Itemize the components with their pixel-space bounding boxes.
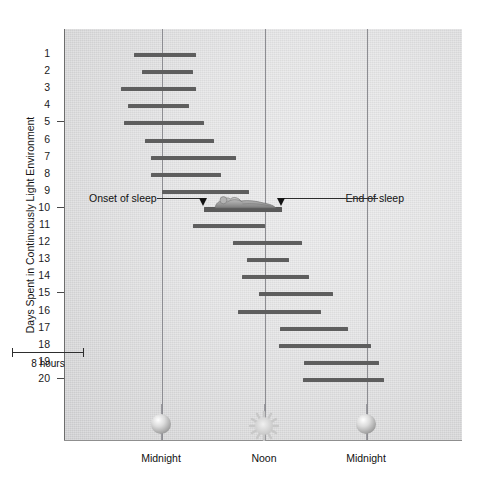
sleep-bar-day-18 [279,344,371,348]
scale-bar-cap-left [12,348,13,357]
scale-bar-label: 8 hours [12,358,84,369]
y-tick-mark-20 [57,378,64,379]
sleep-bar-day-12 [233,241,302,245]
onset-of-sleep-arrow-icon [199,198,207,206]
sleep-bar-day-11 [193,224,265,228]
y-tick-label-15: 15 [38,287,50,298]
plot-area [64,29,462,440]
x-tick-label-midnight-2: Midnight [346,452,386,464]
sleep-bar-day-17 [280,327,348,331]
y-tick-label-1: 1 [44,48,50,59]
sleep-bar-day-19 [304,361,379,365]
end-of-sleep-arrow-icon [277,198,285,206]
sleep-bar-day-1 [134,53,196,57]
y-tick-mark-15 [57,292,64,293]
sleep-bar-day-2 [142,70,192,74]
sleep-bar-day-8 [151,173,221,177]
y-axis: Days Spent in Continuously Light Environ… [0,29,64,440]
y-tick-label-12: 12 [38,236,50,247]
sleep-bar-day-7 [151,156,236,160]
scale-bar-cap-right [83,348,84,357]
scale-bar: 8 hours [12,348,84,374]
y-tick-label-8: 8 [44,168,50,179]
sleep-bar-day-10 [204,207,282,212]
sleep-bar-day-5 [124,121,203,125]
y-tick-label-3: 3 [44,82,50,93]
sleep-bar-day-15 [259,292,333,296]
x-tick-label-noon-1: Noon [251,452,276,464]
sleep-bar-day-16 [238,310,321,314]
sleep-bar-day-14 [242,275,309,279]
y-tick-label-10: 10 [38,202,50,213]
end-of-sleep-leader-line [281,198,378,199]
y-tick-label-2: 2 [44,65,50,76]
sleeping-person-icon [209,193,279,209]
y-tick-label-13: 13 [38,253,50,264]
sleep-phase-chart: Days Spent in Continuously Light Environ… [0,0,484,491]
sleep-bar-day-4 [128,104,190,108]
y-tick-label-20: 20 [38,373,50,384]
onset-of-sleep-label: Onset of sleep [89,192,157,204]
sleep-bar-day-20 [303,378,384,382]
sleep-bar-day-13 [247,258,290,262]
y-tick-label-11: 11 [39,219,50,230]
y-tick-label-17: 17 [38,322,50,333]
scale-bar-rule [12,352,84,353]
y-tick-label-7: 7 [44,151,50,162]
y-tick-label-14: 14 [38,270,50,281]
moon-icon [353,411,379,441]
moon-icon [148,411,174,441]
y-tick-label-16: 16 [38,305,50,316]
x-tick-label-midnight-0: Midnight [141,452,181,464]
y-tick-mark-5 [57,121,64,122]
gridline-noon [265,29,266,440]
y-tick-label-4: 4 [44,99,50,110]
sun-icon [249,411,279,445]
sleep-bar-day-6 [145,139,214,143]
y-tick-label-5: 5 [44,116,50,127]
y-tick-label-6: 6 [44,134,50,145]
onset-of-sleep-leader-line [157,198,203,199]
y-tick-mark-10 [57,207,64,208]
sleep-bar-day-3 [121,87,196,91]
y-tick-label-9: 9 [44,185,50,196]
